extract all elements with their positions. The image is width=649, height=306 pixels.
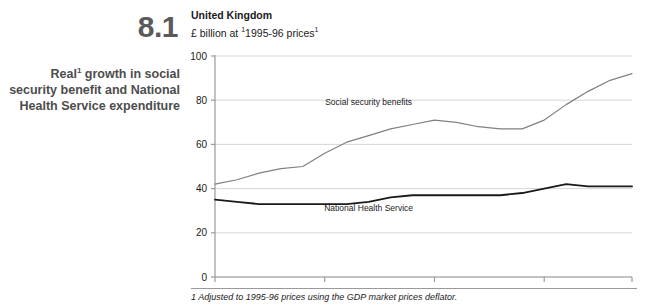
- figure-page: 8.1 Real1 growth in social security bene…: [0, 0, 649, 306]
- gridlines-group: [215, 56, 632, 277]
- footnote-divider: [191, 288, 637, 289]
- axes-group: [211, 55, 632, 282]
- series-inline-labels: Social security benefitsNational Health …: [324, 97, 413, 213]
- series-inline-label-1: National Health Service: [324, 203, 413, 213]
- y-tick-label-0: 0: [201, 272, 207, 283]
- y-tick-label-100: 100: [191, 51, 207, 62]
- y-axis-tick-labels: 020406080100: [191, 51, 207, 283]
- caption-text-end: growth in social security benefit and Na…: [9, 67, 180, 113]
- x-tick-label-4: 1995-96: [620, 285, 637, 286]
- x-tick-label-3: 1991-92: [526, 285, 563, 286]
- x-axis-tick-labels: 1976-771981-821986-871991-921995-96: [191, 285, 637, 286]
- subtitle-marker-right: 1: [315, 26, 319, 33]
- chart-subtitle: £ billion at 11995-96 prices1: [191, 26, 318, 39]
- series-lines-group: [215, 74, 632, 204]
- line-chart-plot: 020406080100 1976-771981-821986-871991-9…: [191, 48, 637, 286]
- x-tick-label-0: 1976-77: [191, 285, 228, 286]
- x-tick-label-1: 1981-82: [306, 285, 343, 286]
- chart-svg: 020406080100 1976-771981-821986-871991-9…: [191, 48, 637, 286]
- y-tick-label-40: 40: [196, 183, 208, 194]
- y-tick-label-60: 60: [196, 139, 208, 150]
- figure-caption: Real1 growth in social security benefit …: [4, 66, 180, 114]
- figure-number: 8.1: [108, 12, 178, 42]
- chart-title: United Kingdom: [191, 9, 272, 21]
- subtitle-main: 1995-96 prices: [245, 27, 314, 39]
- caption-text-start: Real: [51, 67, 77, 81]
- footnote-text: 1 Adjusted to 1995-96 prices using the G…: [191, 292, 457, 302]
- y-tick-label-20: 20: [196, 227, 208, 238]
- x-tick-label-2: 1986-87: [416, 285, 453, 286]
- series-line-national-health-service: [215, 184, 632, 204]
- y-tick-label-80: 80: [196, 95, 208, 106]
- subtitle-prefix: £ billion at: [191, 27, 241, 39]
- series-line-social-security-benefits: [215, 74, 632, 184]
- series-inline-label-0: Social security benefits: [325, 97, 412, 107]
